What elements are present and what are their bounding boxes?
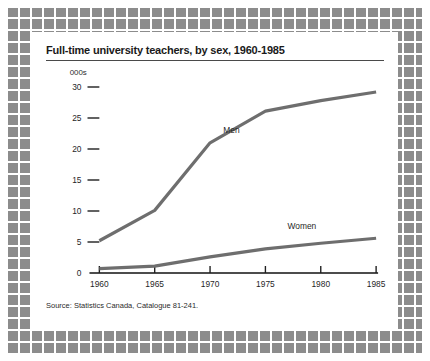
decorative-checkered-border: Full-time university teachers, by sex, 1… xyxy=(8,8,422,353)
y-tick-label-5: 5 xyxy=(77,237,82,247)
line-chart-svg: 000s 30 25 20 xyxy=(44,63,386,291)
y-axis: 30 25 20 15 xyxy=(72,82,99,278)
y-tick-30: 30 xyxy=(72,82,99,92)
chart-title: Full-time university teachers, by sex, 1… xyxy=(46,44,386,56)
source-note: Source: Statistics Canada, Catalogue 81-… xyxy=(46,301,386,310)
x-axis: 1960 1965 1970 1975 1980 1985 xyxy=(90,266,386,289)
series-label-women: Women xyxy=(288,221,317,231)
y-tick-label-0: 0 xyxy=(77,268,82,278)
y-tick-25: 25 xyxy=(72,113,99,123)
series-line-women xyxy=(99,238,376,268)
y-tick-label-20: 20 xyxy=(72,144,82,154)
x-tick-label-1975: 1975 xyxy=(256,279,275,289)
x-tick-label-1960: 1960 xyxy=(90,279,109,289)
x-tick-label-1980: 1980 xyxy=(311,279,330,289)
series-line-men xyxy=(99,92,376,241)
x-tick-label-1965: 1965 xyxy=(145,279,164,289)
chart-page: Full-time university teachers, by sex, 1… xyxy=(0,0,430,361)
y-tick-label-10: 10 xyxy=(72,206,82,216)
chart-card: Full-time university teachers, by sex, 1… xyxy=(32,32,398,329)
y-tick-15: 15 xyxy=(72,175,99,185)
y-tick-5: 5 xyxy=(77,237,99,247)
y-tick-10: 10 xyxy=(72,206,99,216)
y-tick-label-15: 15 xyxy=(72,175,82,185)
y-tick-label-25: 25 xyxy=(72,113,82,123)
y-tick-label-30: 30 xyxy=(72,82,82,92)
series-label-men: Men xyxy=(223,125,240,135)
y-tick-20: 20 xyxy=(72,144,99,154)
y-axis-unit-label: 000s xyxy=(70,68,87,77)
y-tick-0: 0 xyxy=(77,268,82,278)
plot-area: 000s 30 25 20 xyxy=(44,63,386,291)
x-tick-label-1985: 1985 xyxy=(367,279,386,289)
x-tick-label-1970: 1970 xyxy=(201,279,220,289)
title-divider xyxy=(46,60,384,61)
